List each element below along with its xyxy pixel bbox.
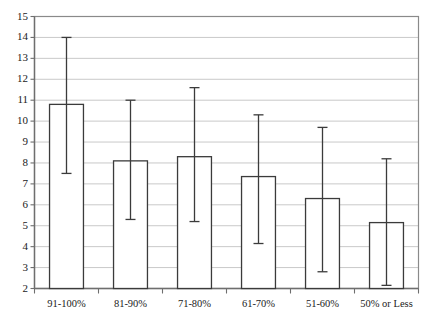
bar-group [178, 88, 212, 289]
bar-group [242, 115, 276, 289]
plot-area [0, 0, 429, 319]
x-axis-category-label: 71-80% [163, 299, 227, 310]
x-axis-category-label: 50% or Less [355, 299, 419, 310]
x-axis-category-label: 51-60% [291, 299, 355, 310]
x-axis-category-label: 91-100% [35, 299, 99, 310]
bar-group [370, 159, 404, 289]
x-axis-category-label: 61-70% [227, 299, 291, 310]
plot-border [35, 17, 419, 289]
bar-chart: 23456789101112131415 91-100%81-90%71-80%… [0, 0, 429, 319]
x-axis-category-label: 81-90% [99, 299, 163, 310]
bar-group [114, 100, 148, 288]
bar-group [306, 127, 340, 288]
bar-group [50, 37, 84, 288]
